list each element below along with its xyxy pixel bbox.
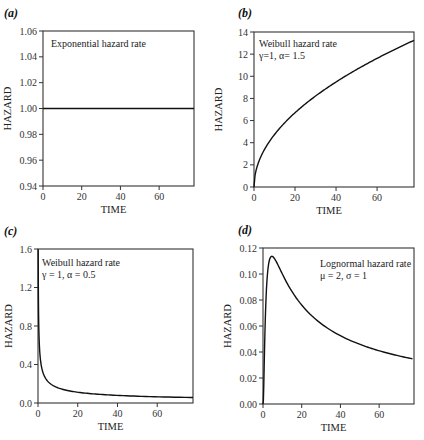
y-tick-label: 0.00 (240, 399, 258, 410)
y-tick-label: 1.02 (20, 77, 38, 88)
panel-b: (b)020406002468101214TIMEHAZARDWeibull h… (213, 6, 414, 216)
panel-a: (a)02040600.940.960.981.001.021.041.06TI… (2, 6, 194, 215)
panel-label: (a) (4, 6, 18, 20)
y-tick-label: 0.02 (240, 373, 258, 384)
y-tick-label: 0.94 (20, 181, 38, 192)
y-axis-title: HAZARD (213, 87, 224, 131)
x-tick-label: 40 (115, 191, 125, 202)
annotation-line: γ=1, α= 1.5 (258, 50, 305, 61)
y-tick-label: 1.2 (20, 282, 33, 293)
x-tick-label: 0 (261, 409, 266, 420)
panel-label: (b) (238, 6, 252, 20)
y-tick-label: 0 (243, 182, 248, 193)
x-axis-title: TIME (101, 204, 127, 215)
y-tick-label: 0.96 (20, 155, 38, 166)
x-tick-label: 40 (112, 408, 122, 419)
y-tick-label: 12 (238, 49, 248, 60)
x-tick-label: 60 (372, 192, 382, 203)
y-tick-label: 0.0 (20, 398, 33, 409)
panel-label: (d) (238, 223, 252, 237)
x-tick-label: 20 (297, 409, 307, 420)
y-tick-label: 6 (243, 115, 248, 126)
x-tick-label: 60 (154, 191, 164, 202)
panel-label: (c) (4, 224, 17, 238)
x-tick-label: 20 (77, 191, 87, 202)
y-tick-label: 2 (243, 159, 248, 170)
x-tick-label: 40 (335, 409, 345, 420)
y-tick-label: 10 (238, 71, 248, 82)
x-axis-title: TIME (316, 205, 342, 216)
y-tick-label: 8 (243, 93, 248, 104)
y-tick-label: 0.12 (240, 243, 258, 254)
y-tick-label: 1.6 (20, 244, 33, 255)
x-axis-title: TIME (321, 422, 347, 433)
x-tick-label: 60 (374, 409, 384, 420)
hazard-curve (254, 40, 414, 187)
y-tick-label: 0.10 (240, 269, 258, 280)
x-tick-label: 40 (331, 192, 341, 203)
x-axis-title: TIME (98, 421, 124, 432)
annotation-line: Weibull hazard rate (42, 257, 121, 268)
annotation-line: Exponential hazard rate (51, 38, 147, 49)
annotation-line: Lognormal hazard rate (320, 258, 412, 269)
y-axis-title: HAZARD (222, 304, 233, 348)
y-tick-label: 0.08 (240, 295, 258, 306)
y-tick-label: 0.4 (20, 359, 33, 370)
x-tick-label: 0 (36, 408, 41, 419)
annotation-line: Weibull hazard rate (259, 38, 338, 49)
y-tick-label: 0.06 (240, 321, 258, 332)
x-tick-label: 20 (73, 408, 83, 419)
annotation-line: γ = 1, α = 0.5 (41, 269, 95, 280)
x-tick-label: 0 (41, 191, 46, 202)
y-axis-title: HAZARD (2, 86, 13, 130)
panel-c: (c)02040600.00.40.81.21.6TIMEHAZARDWeibu… (3, 224, 193, 432)
y-tick-label: 4 (243, 137, 248, 148)
x-tick-label: 0 (252, 192, 257, 203)
y-tick-label: 1.04 (20, 51, 38, 62)
y-tick-label: 1.00 (20, 103, 38, 114)
y-tick-label: 0.8 (20, 321, 33, 332)
y-axis-title: HAZARD (3, 304, 14, 348)
y-tick-label: 0.98 (20, 129, 38, 140)
panel-d: (d)02040600.000.020.040.060.080.100.12TI… (222, 223, 414, 433)
y-tick-label: 14 (238, 27, 248, 38)
y-tick-label: 0.04 (240, 347, 258, 358)
x-tick-label: 20 (290, 192, 300, 203)
y-tick-label: 1.06 (20, 26, 38, 37)
annotation-line: μ = 2, σ = 1 (320, 270, 367, 281)
hazard-rate-figure: (a)02040600.940.960.981.001.021.041.06TI… (0, 0, 424, 440)
x-tick-label: 60 (152, 408, 162, 419)
